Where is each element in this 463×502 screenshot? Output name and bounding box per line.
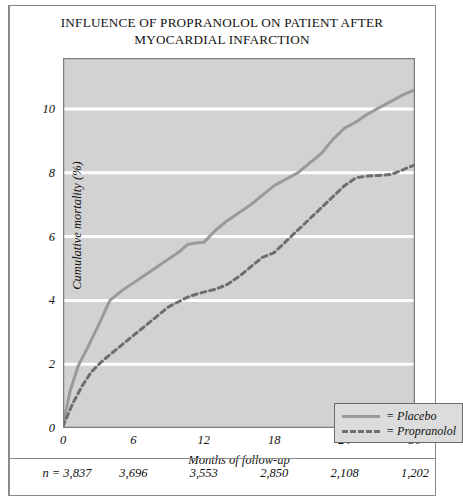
sample-size-value: 2,850	[260, 466, 288, 481]
legend-label-propranolol: = Propranolol	[386, 424, 456, 440]
y-axis-title: Cumulative mortality (%)	[70, 66, 85, 386]
sample-size-value: n = 3,837	[42, 466, 91, 481]
chart-title-line-2: MYOCARDIAL INFARCTION	[14, 31, 430, 48]
sample-size-row: n = 3,8373,6963,5532,8502,1081,202	[8, 466, 436, 486]
sample-size-value: 1,202	[401, 466, 429, 481]
legend-line-solid-icon	[342, 415, 380, 418]
y-tick-label: 8	[49, 165, 55, 180]
legend-item-placebo: = Placebo	[342, 409, 455, 424]
sample-size-value: 2,108	[331, 466, 359, 481]
plot-svg	[63, 58, 415, 428]
x-tick-label: 0	[60, 433, 66, 448]
sample-size-value: 3,553	[190, 466, 218, 481]
legend-line-dashed-icon	[342, 430, 380, 433]
y-tick-label: 4	[49, 293, 55, 308]
y-tick-label: 10	[43, 102, 56, 117]
chart-title-line-1: INFLUENCE OF PROPRANOLOL ON PATIENT AFTE…	[14, 14, 430, 31]
y-tick-label: 2	[49, 357, 55, 372]
x-tick-label: 12	[198, 433, 211, 448]
plot-area: Cumulative mortality (%) 0246810 0612182…	[63, 58, 415, 428]
footer-divider	[8, 458, 436, 459]
x-tick-label: 18	[268, 433, 281, 448]
x-tick-label: 6	[130, 433, 136, 448]
chart-title: INFLUENCE OF PROPRANOLOL ON PATIENT AFTE…	[14, 14, 430, 48]
chart-legend: = Placebo = Propranolol	[334, 403, 463, 443]
y-tick-label: 0	[49, 421, 55, 436]
sample-size-value: 3,696	[119, 466, 147, 481]
y-tick-label: 6	[49, 229, 55, 244]
legend-item-propranolol: = Propranolol	[342, 424, 455, 439]
plot-background	[63, 58, 415, 428]
legend-label-placebo: = Placebo	[386, 409, 436, 425]
